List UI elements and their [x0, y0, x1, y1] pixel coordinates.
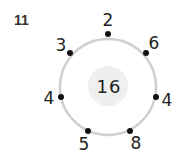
- number-ring-diagram: [0, 0, 181, 164]
- node-label: 6: [149, 35, 160, 52]
- node-dot: [105, 31, 111, 37]
- node-label: 2: [103, 12, 114, 29]
- node-dot: [58, 94, 64, 100]
- node-dot: [67, 50, 73, 56]
- node-dot: [153, 94, 159, 100]
- node-label: 4: [162, 92, 173, 109]
- node-label: 5: [79, 136, 90, 153]
- node-label: 4: [44, 90, 55, 107]
- node-label: 3: [56, 37, 67, 54]
- center-value: 16: [97, 76, 122, 97]
- node-label: 8: [131, 135, 142, 152]
